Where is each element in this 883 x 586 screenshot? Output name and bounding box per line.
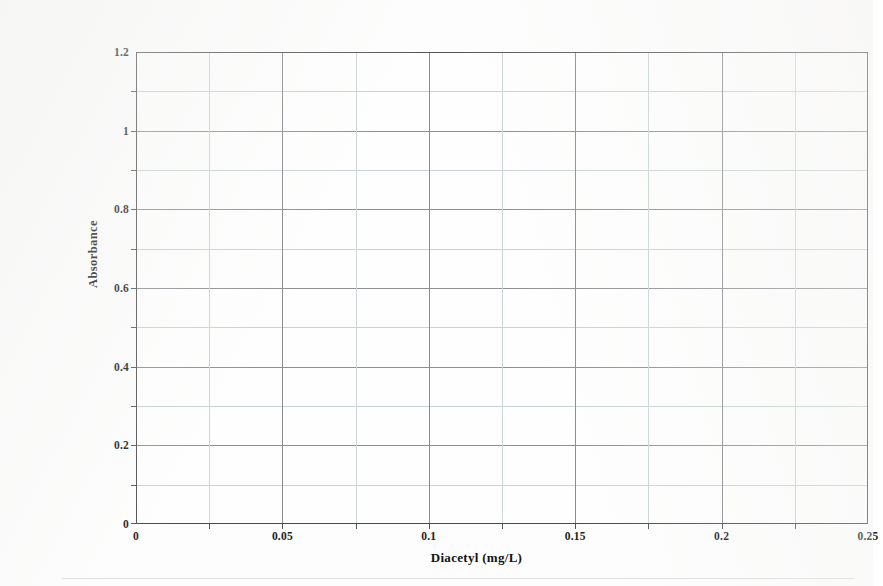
- y-tick-label-0: 0: [123, 518, 129, 530]
- plot-frame-bottom: [136, 523, 868, 525]
- x-tick-mark-0.1: [429, 524, 430, 529]
- y-tick-label-3: 0.6: [114, 282, 129, 294]
- gridline-v-0.15: [575, 52, 576, 524]
- y-tick-label-6: 1.2: [114, 46, 129, 58]
- x-tick-mark-0.225: [795, 524, 796, 529]
- x-tick-mark-0.05: [282, 524, 283, 529]
- y-tick-label-5: 1: [123, 125, 129, 137]
- gridline-v-0.175: [648, 52, 649, 524]
- x-axis-title: Diacetyl (mg/L): [40, 550, 883, 566]
- y-tick-label-1: 0.2: [114, 439, 129, 451]
- gridline-v-0.2: [722, 52, 723, 524]
- x-tick-mark-0.175: [648, 524, 649, 529]
- page-edge-artifact-line: [62, 578, 854, 579]
- x-tick-label-0: 0: [133, 530, 139, 542]
- x-tick-mark-0.075: [356, 524, 357, 529]
- x-tick-mark-0.025: [209, 524, 210, 529]
- gridline-v-0.05: [282, 52, 283, 524]
- plot-frame-left: [136, 52, 137, 524]
- diacetyl-absorbance-chart: Absorbance 0 0.2 0.4 0.6 0.8 1 1.2 0 0.0…: [40, 16, 883, 586]
- y-tick-label-2: 0.4: [114, 361, 129, 373]
- x-tick-label-3: 0.15: [565, 530, 586, 542]
- gridline-v-0.125: [502, 52, 503, 524]
- plot-frame-right: [867, 52, 868, 524]
- y-tick-label-4: 0.8: [114, 203, 129, 215]
- x-tick-mark-0.125: [502, 524, 503, 529]
- x-tick-mark-0.15: [575, 524, 576, 529]
- x-tick-label-1: 0.05: [272, 530, 293, 542]
- y-axis-title: Absorbance: [86, 220, 101, 288]
- x-tick-label-2: 0.1: [421, 530, 436, 542]
- plot-area: [136, 52, 868, 524]
- gridline-v-0.225: [795, 52, 796, 524]
- x-tick-label-5: 0.25: [858, 530, 879, 542]
- plot-frame-top: [136, 52, 868, 53]
- gridline-v-0.025: [209, 52, 210, 524]
- x-tick-label-4: 0.2: [714, 530, 729, 542]
- x-tick-mark-0.2: [722, 524, 723, 529]
- gridline-v-0.1: [429, 52, 430, 524]
- gridline-v-0.075: [356, 52, 357, 524]
